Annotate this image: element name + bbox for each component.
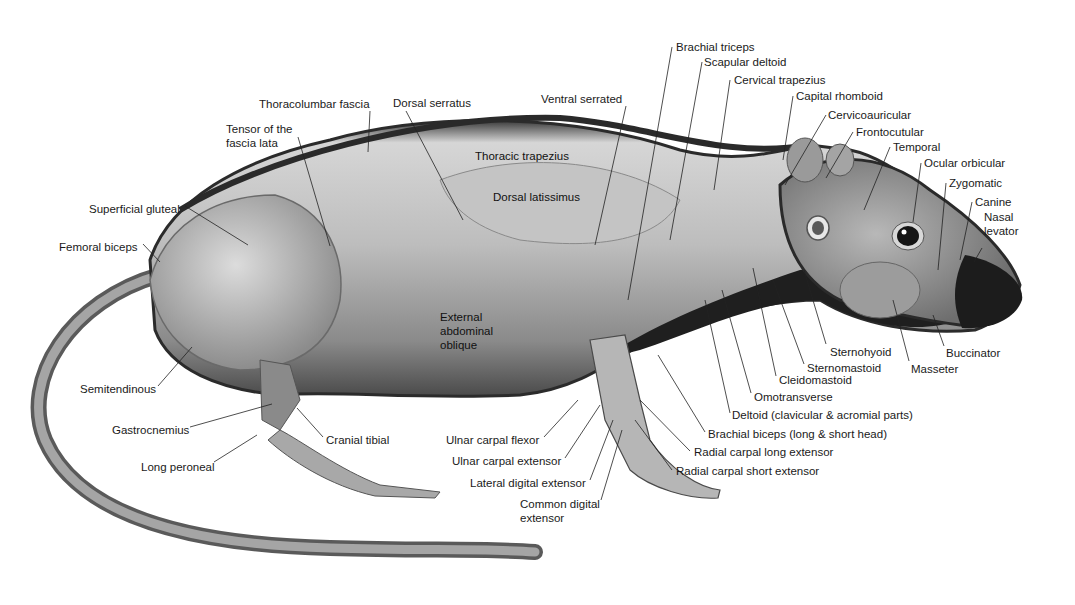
label-femoral-biceps: Femoral biceps [59, 240, 138, 254]
label-ulnar-carpal-flexor: Ulnar carpal flexor [446, 433, 539, 447]
label-brachial-biceps: Brachial biceps (long & short head) [708, 427, 887, 441]
label-dorsal-serratus: Dorsal serratus [393, 96, 471, 110]
label-cervicoauricular: Cervicoauricular [828, 108, 911, 122]
label-layer: Brachial tricepsScapular deltoidCervical… [0, 0, 1075, 605]
label-canine: Canine [975, 195, 1011, 209]
label-superficial-gluteal: Superficial gluteal [89, 202, 180, 216]
label-lateral-digital-extensor: Lateral digital extensor [470, 476, 586, 490]
label-tensor-fascia-lata: Tensor of thefascia lata [226, 122, 292, 150]
label-dorsal-latissimus: Dorsal latissimus [493, 190, 580, 204]
label-deltoid: Deltoid (clavicular & acromial parts) [732, 408, 913, 422]
label-ocular-orbicular: Ocular orbicular [924, 156, 1005, 170]
label-external-abdominal-oblique: Externalabdominaloblique [440, 310, 493, 352]
label-gastrocnemius: Gastrocnemius [112, 423, 189, 437]
label-semitendinous: Semitendinous [80, 382, 156, 396]
label-radial-carpal-short-extensor: Radial carpal short extensor [676, 464, 819, 478]
label-sternohyoid: Sternohyoid [830, 345, 891, 359]
label-ulnar-carpal-extensor: Ulnar carpal extensor [452, 454, 561, 468]
label-brachial-triceps: Brachial triceps [676, 40, 755, 54]
label-omotransverse: Omotransverse [754, 390, 833, 404]
label-cleidomastoid: Cleidomastoid [779, 373, 852, 387]
label-masseter: Masseter [911, 362, 958, 376]
label-cranial-tibial: Cranial tibial [326, 433, 389, 447]
label-capital-rhomboid: Capital rhomboid [796, 89, 883, 103]
label-temporal: Temporal [893, 140, 940, 154]
label-thoracolumbar-fascia: Thoracolumbar fascia [259, 97, 370, 111]
label-scapular-deltoid: Scapular deltoid [704, 55, 786, 69]
label-long-peroneal: Long peroneal [141, 460, 215, 474]
label-ventral-serrated: Ventral serrated [541, 92, 622, 106]
label-thoracic-trapezius: Thoracic trapezius [475, 149, 569, 163]
label-common-digital-extensor: Common digitalextensor [520, 497, 600, 525]
label-sternomastoid: Sternomastoid [807, 361, 881, 375]
label-cervical-trapezius: Cervical trapezius [734, 73, 825, 87]
label-frontocutular: Frontocutular [856, 125, 924, 139]
label-zygomatic: Zygomatic [949, 176, 1002, 190]
label-buccinator: Buccinator [946, 346, 1000, 360]
label-nasal-levator: Nasallevator [984, 210, 1019, 238]
label-radial-carpal-long-extensor: Radial carpal long extensor [694, 445, 833, 459]
